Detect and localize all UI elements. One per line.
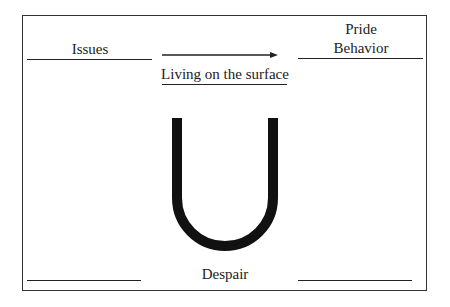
bottom-right-line [298,280,412,281]
bottom-left-line [27,280,141,281]
u-curve-icon [0,0,450,307]
despair-label: Despair [180,266,270,283]
